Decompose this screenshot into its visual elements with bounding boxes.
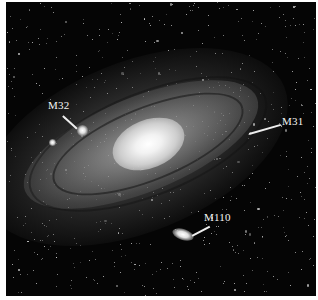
star — [46, 43, 47, 44]
star — [297, 176, 298, 177]
star — [286, 198, 287, 199]
star — [298, 58, 299, 59]
star — [315, 103, 316, 104]
star — [40, 3, 41, 4]
star — [29, 49, 30, 50]
star — [299, 24, 300, 25]
star — [14, 96, 15, 97]
star — [125, 255, 126, 256]
star — [262, 237, 263, 238]
star — [288, 240, 289, 241]
star — [112, 33, 113, 34]
star — [36, 283, 37, 284]
star — [92, 251, 93, 252]
star — [243, 275, 244, 276]
star — [136, 243, 137, 244]
star — [198, 7, 199, 8]
star — [309, 259, 310, 260]
star — [152, 274, 153, 275]
star — [18, 292, 19, 293]
star — [118, 35, 120, 37]
star — [44, 246, 45, 247]
star — [267, 217, 268, 218]
star — [201, 291, 202, 292]
star — [198, 278, 199, 279]
star — [27, 26, 28, 27]
star — [226, 209, 227, 210]
star — [208, 15, 209, 16]
star — [34, 252, 35, 253]
star — [117, 39, 118, 40]
star — [53, 12, 54, 13]
star — [283, 14, 284, 15]
star — [313, 236, 314, 237]
star — [295, 100, 296, 101]
star — [28, 42, 29, 43]
star — [218, 226, 219, 227]
star — [308, 140, 309, 141]
star — [94, 280, 95, 281]
star — [301, 269, 302, 270]
star — [252, 173, 253, 174]
star — [202, 43, 203, 44]
star — [194, 282, 195, 283]
star — [186, 14, 187, 15]
star — [139, 265, 140, 266]
star — [189, 6, 190, 7]
star — [183, 279, 184, 280]
star — [9, 41, 11, 43]
star — [127, 50, 128, 51]
star — [139, 243, 140, 244]
star — [250, 202, 251, 203]
star — [55, 69, 56, 70]
star — [254, 242, 256, 244]
star — [238, 253, 239, 254]
star — [249, 233, 251, 235]
star — [9, 74, 10, 75]
star — [73, 263, 74, 264]
star — [99, 50, 100, 51]
star — [232, 246, 233, 247]
star — [261, 227, 262, 228]
star — [262, 258, 263, 259]
star — [112, 250, 113, 251]
star — [216, 234, 217, 235]
star — [238, 21, 239, 22]
star — [264, 291, 265, 292]
star — [295, 252, 296, 253]
star — [309, 178, 310, 179]
star — [76, 65, 77, 66]
star — [51, 7, 52, 8]
star — [180, 266, 181, 267]
star — [288, 186, 289, 187]
star — [209, 243, 210, 244]
star — [219, 8, 220, 9]
star — [32, 42, 33, 43]
star — [37, 254, 38, 255]
star — [286, 156, 287, 157]
star — [243, 250, 244, 251]
star — [304, 32, 305, 33]
star — [16, 40, 17, 41]
star — [244, 185, 245, 186]
star — [174, 287, 175, 288]
star — [223, 197, 224, 198]
star — [144, 286, 145, 287]
star — [161, 262, 162, 263]
star — [192, 10, 193, 11]
star — [214, 37, 215, 38]
star — [250, 258, 251, 259]
star — [62, 78, 63, 79]
star — [71, 288, 72, 289]
star — [311, 152, 312, 153]
star — [252, 270, 253, 271]
star — [39, 85, 40, 86]
star — [284, 232, 285, 233]
star — [261, 23, 262, 24]
star — [274, 215, 275, 216]
star — [41, 259, 42, 260]
star — [308, 225, 309, 226]
star — [246, 283, 247, 284]
star — [280, 51, 281, 52]
star — [217, 2, 218, 3]
